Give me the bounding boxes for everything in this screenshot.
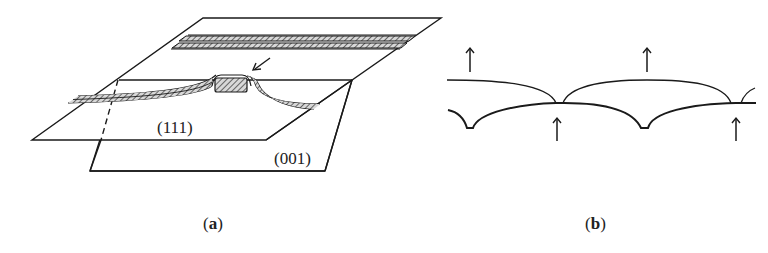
label-111: (111) [157,118,193,137]
caption-a: (a) [203,214,223,233]
upper-arc-2 [563,80,731,103]
lower-curve [448,103,756,128]
step-block [215,78,247,92]
panel-a: (111) (001) (a) [32,18,441,233]
label-001: (001) [274,149,311,168]
caption-b: (b) [585,214,606,233]
upper-arc-1 [447,80,556,103]
figure-canvas: (111) (001) (a) (b) [0,0,768,253]
upper-arc-3 [741,88,755,103]
panel-b [447,49,756,141]
